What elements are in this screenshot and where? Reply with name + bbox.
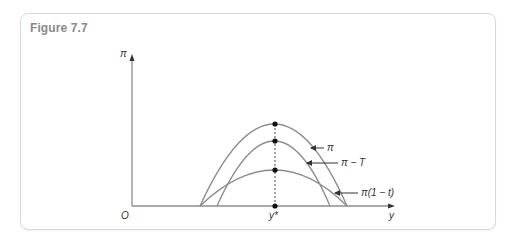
curve-label-pi-minus-T: π − T [341, 157, 366, 168]
dot-pi-minus-T-peak [272, 138, 277, 143]
dot-pi-peak [272, 121, 277, 126]
dot-y-star [272, 203, 277, 208]
x-axis-label: y [388, 210, 395, 221]
curve-pi-one-minus-t [200, 170, 347, 206]
curve-label-pi-one-minus-t: π(1 − t) [361, 187, 394, 198]
y-star-label: y* [268, 210, 279, 221]
origin-label: O [121, 210, 129, 221]
diagram: π O y y* π π − T π(1 − t) [0, 0, 519, 247]
x-axis-arrow-icon [388, 204, 395, 209]
curve-pi-minus-T [217, 141, 330, 206]
y-axis-arrow-icon [130, 54, 135, 61]
y-axis-label: π [120, 48, 127, 59]
curve-label-pi: π [327, 142, 334, 153]
dot-pi-one-minus-t-peak [272, 167, 277, 172]
